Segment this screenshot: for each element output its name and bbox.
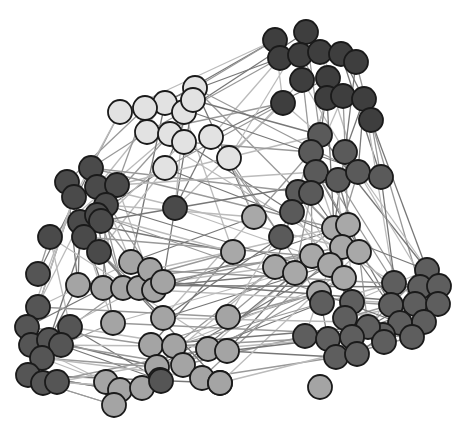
graph-node-cluster-lower-center-gray: [66, 273, 90, 297]
graph-node-cluster-lower-center-gray: [216, 305, 240, 329]
graph-node-cluster-lower-center-gray: [102, 393, 126, 417]
graph-node-cluster-bottom-left: [149, 369, 173, 393]
graph-node-cluster-center-gray: [347, 240, 371, 264]
graph-node-cluster-top-left-light: [181, 88, 205, 112]
graph-node-cluster-lower-center-gray: [308, 375, 332, 399]
graph-node-cluster-top-left-light: [135, 120, 159, 144]
graph-node-cluster-bottom-right: [345, 342, 369, 366]
graph-edge: [227, 351, 336, 357]
graph-node-cluster-right-middle: [304, 160, 328, 184]
graph-node-cluster-lower-center-gray: [101, 311, 125, 335]
graph-node-cluster-bottom-right: [324, 345, 348, 369]
graph-edge: [211, 58, 280, 137]
graph-node-cluster-lower-center-gray: [215, 339, 239, 363]
graph-node-cluster-right-middle: [369, 165, 393, 189]
graph-node-cluster-top-left-light: [199, 125, 223, 149]
graph-node-cluster-top-right: [331, 84, 355, 108]
graph-node-cluster-bottom-right: [382, 271, 406, 295]
graph-node-cluster-bottom-right: [372, 330, 396, 354]
graph-node-cluster-top-right: [290, 68, 314, 92]
graph-node-cluster-lower-center-gray: [208, 371, 232, 395]
graph-node-cluster-left: [38, 225, 62, 249]
graph-node-cluster-right-middle: [346, 160, 370, 184]
graph-node-cluster-bottom-right: [400, 325, 424, 349]
graph-node-cluster-center-gray: [221, 240, 245, 264]
graph-node-cluster-lower-center-gray: [151, 270, 175, 294]
graph-node-cluster-top-left-light: [108, 100, 132, 124]
graph-node-cluster-left: [87, 240, 111, 264]
graph-node-cluster-top-left-light: [153, 156, 177, 180]
graph-node-cluster-top-right: [359, 108, 383, 132]
graph-node-cluster-center-gray: [336, 213, 360, 237]
graph-node-cluster-left: [62, 185, 86, 209]
graph-node-cluster-right-middle: [280, 200, 304, 224]
graph-node-cluster-bottom-left: [26, 262, 50, 286]
network-graph: [0, 0, 471, 437]
graph-node-cluster-lower-center-gray: [139, 333, 163, 357]
graph-node-cluster-right-middle: [299, 181, 323, 205]
graph-node-cluster-center-gray: [242, 205, 266, 229]
graph-node-cluster-top-left-light: [172, 130, 196, 154]
graph-node-cluster-lower-center-gray: [151, 306, 175, 330]
graph-node-cluster-bottom-right: [293, 324, 317, 348]
graph-node-cluster-left: [163, 196, 187, 220]
graph-node-cluster-top-left-light: [217, 146, 241, 170]
graph-node-cluster-bottom-left: [45, 370, 69, 394]
graph-node-cluster-center-gray: [332, 266, 356, 290]
graph-node-cluster-top-right: [344, 50, 368, 74]
graph-node-cluster-top-left-light: [133, 96, 157, 120]
graph-node-cluster-top-right: [271, 91, 295, 115]
graph-node-cluster-bottom-right: [310, 291, 334, 315]
graph-node-cluster-right-middle: [269, 225, 293, 249]
